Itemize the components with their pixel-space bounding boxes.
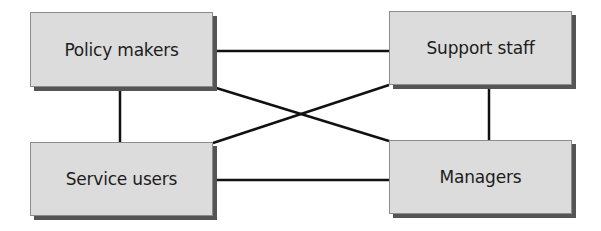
node-label: Policy makers <box>64 40 178 60</box>
stakeholder-diagram: Policy makers Support staff Service user… <box>0 0 601 231</box>
node-support-staff: Support staff <box>389 11 572 85</box>
node-policy-makers: Policy makers <box>30 12 213 87</box>
node-service-users: Service users <box>30 142 213 216</box>
node-label: Service users <box>66 169 178 189</box>
node-label: Managers <box>440 167 522 187</box>
node-managers: Managers <box>389 140 572 214</box>
edge-service-support <box>213 85 389 143</box>
node-label: Support staff <box>427 38 535 58</box>
